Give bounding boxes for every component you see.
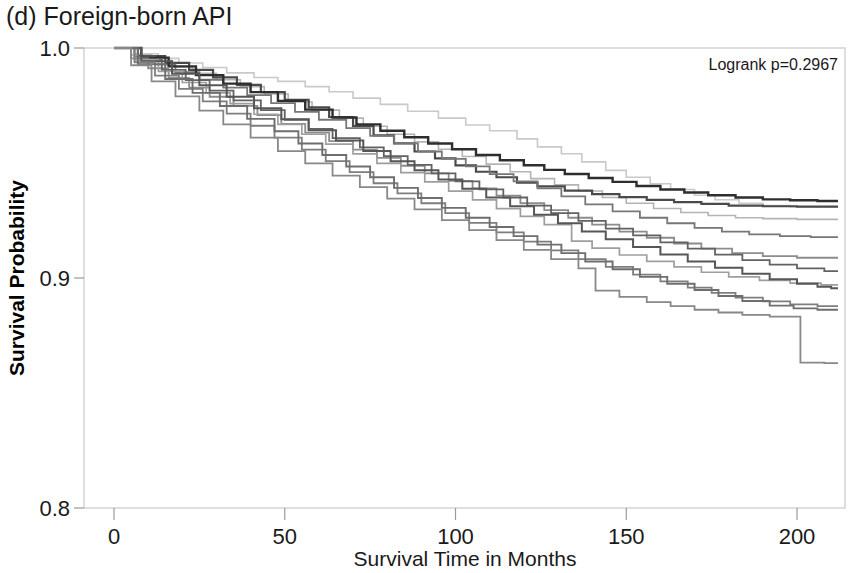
y-axis-title: Survival Probability: [5, 180, 28, 376]
x-tick-label: 50: [273, 524, 297, 549]
x-tick-label: 150: [608, 524, 645, 549]
y-axis-ticks: 1.00.90.8: [39, 36, 84, 521]
logrank-annotation: Logrank p=0.2967: [709, 56, 839, 73]
x-tick-label: 200: [779, 524, 816, 549]
figure-panel: (d) Foreign-born API 1.00.90.8 050100150…: [0, 0, 857, 573]
km-curve-group-2: [114, 48, 838, 219]
y-tick-label: 0.9: [39, 266, 70, 291]
x-axis-ticks: 050100150200: [108, 508, 815, 549]
y-tick-label: 1.0: [39, 36, 70, 61]
km-curve-group: [114, 48, 838, 363]
x-tick-label: 100: [437, 524, 474, 549]
y-tick-label: 0.8: [39, 496, 70, 521]
x-axis-title: Survival Time in Months: [354, 547, 577, 570]
x-tick-label: 0: [108, 524, 120, 549]
plot-frame: [84, 48, 845, 508]
survival-chart: 1.00.90.8 050100150200 Survival Probabil…: [0, 0, 857, 573]
